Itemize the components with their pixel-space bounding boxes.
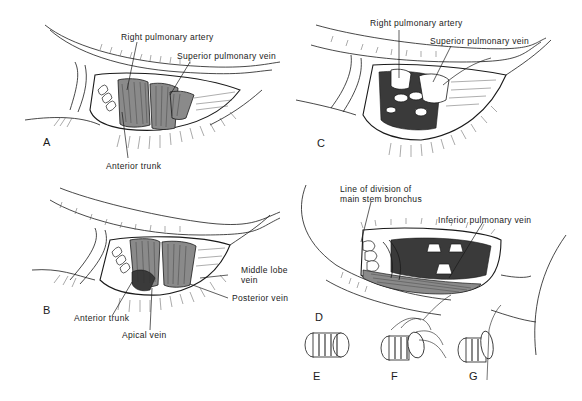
label-superior-pulmonary-vein: Superior pulmonary vein bbox=[430, 36, 529, 46]
label-middle-lobe-vein: Middle lobe vein bbox=[241, 265, 288, 285]
label-anterior-trunk: Anterior trunk bbox=[106, 161, 161, 171]
label-anterior-trunk: Anterior trunk bbox=[74, 313, 129, 323]
panel-c: Right pulmonary artery Superior pulmonar… bbox=[291, 0, 582, 180]
panel-b: Middle lobe vein Posterior vein Anterior… bbox=[0, 180, 291, 401]
panel-letter-g: G bbox=[469, 370, 478, 382]
label-inferior-pulmonary-vein: Inferior pulmonary vein bbox=[438, 215, 531, 225]
label-posterior-vein: Posterior vein bbox=[232, 293, 288, 303]
panel-letter-b: B bbox=[43, 304, 50, 316]
panel-d-illustration bbox=[291, 180, 582, 401]
panel-letter-a: A bbox=[43, 136, 50, 148]
panel-a-illustration bbox=[0, 0, 291, 180]
label-line-of-division-line1: Line of division of bbox=[340, 184, 422, 194]
label-right-pulmonary-artery: Right pulmonary artery bbox=[370, 18, 463, 28]
panel-d: Line of division of main stem bronchus I… bbox=[291, 180, 582, 401]
panel-letter-e: E bbox=[313, 370, 320, 382]
label-right-pulmonary-artery: Right pulmonary artery bbox=[121, 32, 214, 42]
label-middle-lobe-vein-line2: vein bbox=[241, 275, 288, 285]
label-line-of-division-line2: main stem bronchus bbox=[340, 194, 422, 204]
label-superior-pulmonary-vein: Superior pulmonary vein bbox=[177, 51, 276, 61]
panel-letter-d: D bbox=[315, 311, 323, 323]
panel-a: Right pulmonary artery Superior pulmonar… bbox=[0, 0, 291, 180]
label-apical-vein: Apical vein bbox=[122, 330, 166, 340]
label-line-of-division: Line of division of main stem bronchus bbox=[340, 184, 422, 204]
label-middle-lobe-vein-line1: Middle lobe bbox=[241, 265, 288, 275]
panel-letter-c: C bbox=[317, 137, 325, 149]
panel-b-illustration bbox=[0, 180, 291, 401]
panel-letter-f: F bbox=[391, 370, 398, 382]
